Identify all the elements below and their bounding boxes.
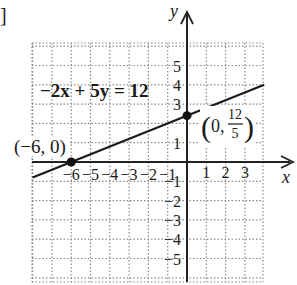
fraction-numerator: 12 [228,107,242,122]
y-tick-label: −1 [164,173,181,190]
point-label-x-intercept: (−6, 0) [14,136,66,158]
y-tick-label: 5 [173,58,181,75]
x-tick-label: −5 [82,166,99,183]
paren-close: ) [244,110,254,144]
y-tick-label: 1 [173,135,181,152]
x-tick-label: 2 [222,164,230,181]
x-axis-label: x [281,167,290,187]
y-tick-label: 3 [173,96,181,113]
y-axis-label: y [168,1,178,21]
x-tick-label: −6 [63,166,80,183]
y-tick-label: −5 [164,251,181,268]
point-marker [67,158,76,167]
y-tick-label: −2 [164,193,181,210]
equation-label: −2x + 5y = 12 [40,80,148,101]
x-tick-label: 1 [202,164,210,181]
point-label-y-prefix: 0, [211,116,225,136]
axes [32,12,293,282]
x-tick-label: 3 [241,164,249,181]
x-tick-label: −2 [140,166,157,183]
coordinate-plane: −6−5−4−3−2−11235431−1−2−3−4−5 (−6, 0)(0,… [0,0,297,285]
fraction-denominator: 5 [232,126,239,141]
point-marker [183,111,192,120]
bracket-fragment: ] [0,4,7,26]
y-tick-label: −4 [164,231,181,248]
x-tick-label: −4 [101,166,118,183]
paren-open: ( [201,110,211,144]
x-tick-label: −3 [121,166,138,183]
y-tick-label: 4 [173,77,181,94]
y-tick-label: −3 [164,212,181,229]
